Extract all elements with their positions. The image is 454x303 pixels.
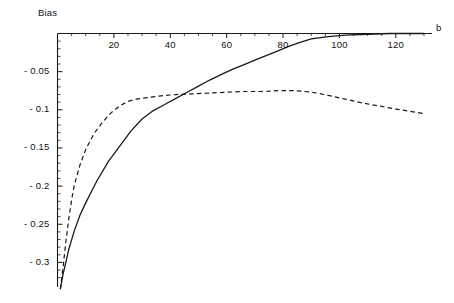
y-axis-ticks bbox=[58, 41, 63, 278]
axes bbox=[58, 34, 433, 288]
y-tick-label: - 0.25 bbox=[0, 218, 50, 229]
y-tick-label: - 0.2 bbox=[0, 180, 50, 191]
x-tick-label: 80 bbox=[263, 39, 303, 50]
y-tick-label: - 0.3 bbox=[0, 256, 50, 267]
x-tick-label: 40 bbox=[150, 39, 190, 50]
x-tick-label: 120 bbox=[376, 39, 416, 50]
dashed-curve bbox=[60, 91, 424, 289]
y-tick-label: - 0.05 bbox=[0, 65, 50, 76]
solid-curve bbox=[60, 34, 424, 290]
y-tick-label: - 0.15 bbox=[0, 141, 50, 152]
x-tick-label: 20 bbox=[94, 39, 134, 50]
x-tick-label: 100 bbox=[319, 39, 359, 50]
x-tick-label: 60 bbox=[207, 39, 247, 50]
data-series bbox=[60, 34, 424, 290]
bias-vs-b-chart: Bias b 20406080100120 - 0.05- 0.1- 0.15-… bbox=[0, 0, 454, 303]
y-tick-label: - 0.1 bbox=[0, 103, 50, 114]
